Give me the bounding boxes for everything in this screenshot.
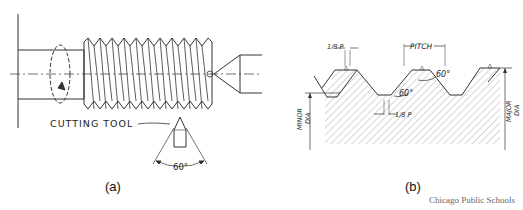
- major-dia-label: MAJOR DIA: [505, 100, 521, 122]
- caption-a: (a): [105, 179, 121, 194]
- thread-diagram: CUTTING TOOL 60° (a): [0, 0, 523, 210]
- tool-angle-label: 60°: [173, 162, 188, 172]
- caption-b: (b): [405, 179, 421, 194]
- svg-text:DIA: DIA: [304, 113, 312, 124]
- crest-flat-label: 1/8 P: [327, 43, 344, 51]
- credit-text: Chicago Public Schools: [429, 195, 515, 205]
- svg-text:MAJOR: MAJOR: [505, 100, 513, 122]
- pitch-label: PITCH: [410, 42, 433, 51]
- figure-a-lathe: [10, 14, 262, 128]
- minor-dia-label: MINOR DIA: [296, 108, 312, 130]
- cutting-tool-label: CUTTING TOOL: [50, 118, 133, 129]
- svg-text:MINOR: MINOR: [296, 108, 304, 130]
- angle-top-label: 60°: [436, 70, 450, 79]
- svg-text:DIA: DIA: [513, 105, 521, 116]
- root-flat-label: 1/8 P: [395, 111, 412, 119]
- cutting-tool: [138, 117, 207, 167]
- angle-mid-label: 60°: [399, 89, 413, 98]
